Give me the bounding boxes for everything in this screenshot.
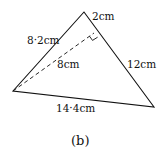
- figure-caption: (b): [71, 133, 89, 148]
- label-right-side: 12cm: [127, 58, 156, 70]
- triangle-diagram: 8·2cm 2cm 8cm 12cm 14·4cm (b): [0, 0, 162, 158]
- right-angle-mark: [90, 36, 98, 40]
- label-top-segment: 2cm: [92, 10, 115, 22]
- label-height: 8cm: [57, 58, 80, 70]
- label-left-side: 8·2cm: [27, 34, 60, 46]
- label-bottom-side: 14·4cm: [56, 102, 95, 114]
